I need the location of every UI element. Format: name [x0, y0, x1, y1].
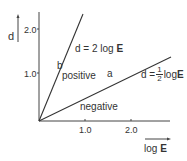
x-axis-label: log E: [144, 144, 167, 154]
x-arrowhead-icon: [167, 138, 171, 141]
line-b-equation-var: E: [116, 43, 123, 54]
line-a-equation-var: E: [177, 70, 184, 80]
line-b-equation-prefix: d = 2 log: [75, 43, 116, 54]
y-tick-label-2: 2.0: [24, 25, 37, 35]
line-a-equation-suffix: log: [164, 70, 177, 80]
fraction: 1 2: [156, 66, 162, 83]
x-axis-label-prefix: log: [144, 143, 160, 154]
fraction-denominator: 2: [157, 75, 161, 83]
line-a-equation: d = 1 2 log E: [141, 66, 184, 83]
x-tick-label-1: 1.0: [79, 125, 92, 135]
line-a-equation-prefix: d =: [141, 70, 155, 80]
x-axis-label-var: E: [160, 143, 167, 154]
x-tick-label-2: 2.0: [125, 125, 138, 135]
y-axis-label: d: [8, 31, 14, 41]
line-b-equation: d = 2 log E: [75, 44, 123, 54]
negative-region-label: negative: [80, 102, 118, 112]
positive-region-label: positive: [62, 71, 96, 81]
line-a-label: a: [107, 69, 113, 79]
y-tick-label-1: 1.0: [24, 69, 37, 79]
y-arrowhead-icon: [17, 14, 20, 18]
